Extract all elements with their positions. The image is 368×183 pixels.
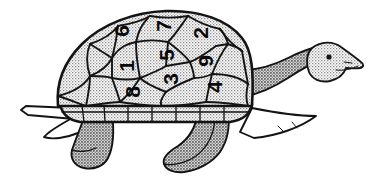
scute-digit-1: 1 [115,60,138,72]
scute-digit-4: 4 [203,81,226,93]
scute-digit-3: 3 [159,73,182,85]
eye-icon [326,54,331,59]
illustration-root: 6 7 2 5 9 1 3 8 4 [0,0,368,183]
scute-digit-9: 9 [194,55,217,67]
scute-digit-5: 5 [155,49,178,61]
scute-digit-2: 2 [189,27,212,39]
turtle-illustration: 6 7 2 5 9 1 3 8 4 [0,0,368,183]
scute-digit-6: 6 [110,25,133,37]
scute-digit-8: 8 [121,86,144,98]
scute-digit-7: 7 [152,20,175,32]
